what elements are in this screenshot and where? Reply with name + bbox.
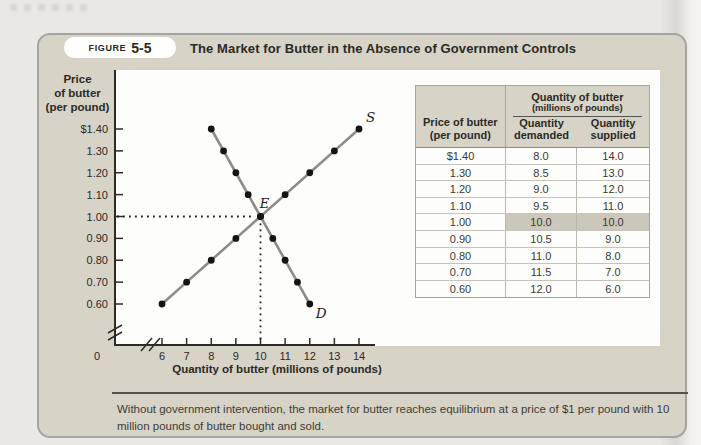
quantity-supplied-cell: 7.0 <box>577 264 649 280</box>
scanned-textbook-page: FIGURE 5-5 The Market for Butter in the … <box>0 0 701 445</box>
quantity-demanded-cell: 10.5 <box>506 231 577 247</box>
supply-data-point <box>183 279 190 286</box>
table-row: 1.308.513.0 <box>416 165 649 182</box>
demand-data-point <box>208 126 215 133</box>
quantity-demanded-header: Quantity demanded <box>506 117 578 142</box>
quantity-supplied-cell: 10.0 <box>577 214 649 230</box>
quantity-supplied-cell: 9.0 <box>577 231 649 247</box>
quantity-supplied-cell: 6.0 <box>577 281 649 298</box>
supply-data-point <box>208 257 215 264</box>
y-tick-label: 1.20 <box>87 167 108 179</box>
quantity-demanded-cell: 12.0 <box>506 281 577 298</box>
supply-data-point <box>306 169 313 176</box>
quantity-supplied-cell: 13.0 <box>577 165 649 181</box>
quantity-demanded-cell: 8.5 <box>506 165 577 181</box>
price-cell: 1.10 <box>416 198 506 214</box>
price-cell: 0.90 <box>416 231 506 247</box>
x-tick-label: 12 <box>304 350 316 362</box>
figure-number: 5-5 <box>131 40 151 56</box>
price-header-line2: (per pound) <box>430 129 491 142</box>
quantity-columns-header: Quantity of butter (millions of pounds) … <box>506 86 649 147</box>
price-table: Price of butter (per pound) Quantity of … <box>415 85 650 298</box>
price-header-line1: Price of butter <box>423 116 498 129</box>
demand-data-point <box>245 191 252 198</box>
y-tick-label: 1.00 <box>87 211 108 223</box>
figure-word: FIGURE <box>89 43 127 53</box>
x-tick-label: 11 <box>279 350 290 362</box>
demand-curve-label: D <box>315 305 327 321</box>
x-tick-label: 9 <box>233 350 239 362</box>
price-cell: 1.30 <box>416 165 506 181</box>
demand-data-point <box>294 279 301 286</box>
price-cell: 0.80 <box>416 248 506 264</box>
y-tick-label: 0.90 <box>87 232 108 244</box>
quantity-supplied-header: Quantity supplied <box>577 117 649 142</box>
y-tick-label: 1.10 <box>87 189 108 201</box>
quantity-demanded-cell: 9.5 <box>506 198 577 214</box>
y-tick-label: 0.60 <box>87 298 108 310</box>
x-tick-label: 8 <box>208 350 214 362</box>
supplied-header-line1: Quantity <box>577 117 649 130</box>
quantity-demanded-cell: 10.0 <box>506 214 577 230</box>
supply-demand-chart: $1.401.301.201.101.000.900.800.700.60678… <box>79 65 429 410</box>
table-row: 0.7011.57.0 <box>416 264 649 281</box>
x-tick-label: 10 <box>254 350 266 362</box>
scan-artifact <box>10 4 94 11</box>
x-tick-label: 14 <box>353 350 365 362</box>
quantity-span-line2: (millions of pounds) <box>513 103 642 114</box>
price-cell: $1.40 <box>416 148 506 164</box>
quantity-span-header: Quantity of butter (millions of pounds) <box>513 86 642 117</box>
y-tick-label: 1.30 <box>87 145 108 157</box>
y-tick-label: 0.70 <box>87 276 108 288</box>
quantity-demanded-cell: 11.0 <box>506 248 577 264</box>
table-row: 0.8011.08.0 <box>416 248 649 265</box>
quantity-subheaders: Quantity demanded Quantity supplied <box>506 117 649 148</box>
quantity-demanded-cell: 8.0 <box>506 148 577 164</box>
origin-label: 0 <box>94 350 100 362</box>
table-row: 0.9010.59.0 <box>416 231 649 248</box>
equilibrium-label: E <box>259 196 270 211</box>
supply-data-point <box>356 126 363 133</box>
table-row: $1.408.014.0 <box>416 148 649 165</box>
supply-data-point <box>331 147 338 154</box>
figure-caption: Without government intervention, the mar… <box>117 401 677 434</box>
table-row: 0.6012.06.0 <box>416 281 649 298</box>
demand-data-point <box>232 169 239 176</box>
figure-title: The Market for Butter in the Absence of … <box>190 41 576 56</box>
price-cell: 0.60 <box>416 281 506 298</box>
supply-curve-label: S <box>366 109 375 125</box>
table-row-equilibrium: 1.0010.010.0 <box>416 214 649 231</box>
demand-data-point <box>257 213 264 220</box>
table-row: 1.209.012.0 <box>416 181 649 198</box>
table-row: 1.109.511.0 <box>416 198 649 215</box>
price-cell: 1.20 <box>416 181 506 197</box>
quantity-supplied-cell: 11.0 <box>577 198 649 214</box>
y-tick-label: $1.40 <box>80 123 108 135</box>
demand-data-point <box>282 257 289 264</box>
supply-data-point <box>282 191 289 198</box>
demand-data-point <box>220 147 227 154</box>
demanded-header-line2: demanded <box>506 129 578 142</box>
quantity-demanded-cell: 9.0 <box>506 181 577 197</box>
caption-divider <box>112 392 688 394</box>
y-tick-label: 0.80 <box>87 254 108 266</box>
quantity-supplied-cell: 8.0 <box>577 248 649 264</box>
x-axis-title: Quantity of butter (millions of pounds) <box>172 363 382 375</box>
table-header: Price of butter (per pound) Quantity of … <box>416 86 649 148</box>
quantity-supplied-cell: 12.0 <box>577 181 649 197</box>
x-tick-label: 13 <box>328 350 340 362</box>
price-cell: 0.70 <box>416 264 506 280</box>
x-tick-label: 7 <box>184 350 190 362</box>
quantity-demanded-cell: 11.5 <box>506 264 577 280</box>
demand-data-point <box>306 301 313 308</box>
demand-data-point <box>269 235 276 242</box>
figure-number-badge: FIGURE 5-5 <box>64 37 176 58</box>
x-tick-label: 6 <box>159 350 165 362</box>
price-cell: 1.00 <box>416 214 506 230</box>
figure-panel: FIGURE 5-5 The Market for Butter in the … <box>37 33 687 438</box>
supply-data-point <box>159 301 166 308</box>
price-column-header: Price of butter (per pound) <box>416 86 506 147</box>
demanded-header-line1: Quantity <box>506 117 578 130</box>
supply-data-point <box>232 235 239 242</box>
table-body: $1.408.014.01.308.513.01.209.012.01.109.… <box>416 148 649 297</box>
